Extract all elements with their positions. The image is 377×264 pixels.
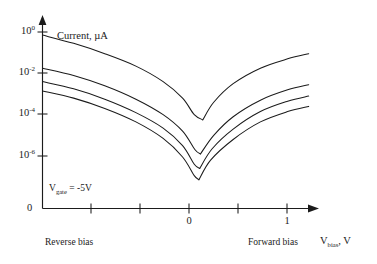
y-tick-label-1e-2: 10-2 (8, 67, 35, 78)
x-axis-title: Vbias, V (320, 236, 351, 247)
x-tick-label-0: 0 (174, 216, 204, 227)
curve-2-reverse-branch (43, 68, 201, 154)
y-tick-label-1e-4: 10-4 (8, 108, 35, 119)
gate-voltage-annotation: Vgate = -5V (49, 184, 92, 194)
forward-bias-label: Forward bias (248, 238, 298, 248)
y-tick-label-1e-6: 10-6 (8, 150, 35, 161)
reverse-bias-label: Reverse bias (45, 238, 93, 248)
curve-4-reverse-branch (43, 91, 199, 180)
curves-group (43, 35, 309, 180)
x-axis-arrowhead (308, 205, 319, 213)
x-tick-label-1: 1 (272, 216, 302, 227)
figure-root: 100 10-2 10-4 10-6 0 Current, µA 0 1 Rev… (0, 0, 377, 264)
y-axis-title: Current, µA (57, 31, 108, 42)
y-axis-arrowhead (39, 15, 47, 25)
curve-1-reverse-branch (43, 35, 203, 120)
y-tick-label-1e0: 100 (8, 26, 35, 37)
origin-label: 0 (27, 203, 32, 214)
curve-4-forward-branch (199, 106, 309, 179)
